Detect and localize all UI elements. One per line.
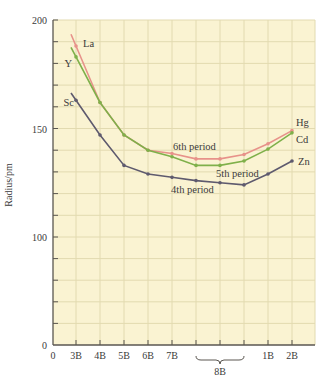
plot-background [53, 20, 315, 345]
data-point [74, 98, 78, 102]
data-point [242, 153, 246, 157]
label-cd: Cd [296, 134, 309, 145]
label-la: La [83, 38, 94, 49]
data-point [98, 101, 102, 105]
y-tick-label: 0 [42, 340, 47, 351]
data-point [218, 157, 222, 161]
data-point [242, 159, 246, 163]
y-axis-title: Radius/pm [3, 163, 14, 207]
label-y: Y [64, 58, 72, 69]
data-point [266, 147, 270, 151]
data-point [194, 164, 198, 168]
data-point [266, 172, 270, 176]
group-brace [196, 356, 244, 364]
x-tick-label: 1B [262, 350, 274, 361]
radius-chart: 0100150200 03B4B5B6B7B1B2B8B LaYScHgCdZn… [0, 0, 333, 383]
y-tick-label: 150 [32, 124, 47, 135]
annotation-6th-period: 6th period [173, 141, 217, 152]
y-tick-label: 200 [32, 15, 47, 26]
x-tick-label: 4B [94, 350, 106, 361]
data-point [98, 133, 102, 137]
annotation-5th-period: 5th period [216, 168, 260, 179]
data-point [170, 155, 174, 159]
x-tick-label: 7B [166, 350, 178, 361]
x-tick-label: 0 [51, 350, 56, 361]
data-point [218, 181, 222, 185]
x-tick-label: 5B [118, 350, 130, 361]
x-tick-label: 6B [142, 350, 154, 361]
data-point [266, 142, 270, 146]
label-hg: Hg [296, 117, 310, 128]
data-point [194, 179, 198, 183]
data-point [170, 176, 174, 180]
x-tick-label: 2B [286, 350, 298, 361]
data-point [218, 164, 222, 168]
data-point [146, 172, 150, 176]
label-zn: Zn [298, 156, 310, 167]
label-sc: Sc [64, 97, 75, 108]
data-point [74, 44, 78, 48]
data-point [74, 55, 78, 59]
data-point [122, 133, 126, 137]
x-tick-label: 3B [70, 350, 82, 361]
data-point [290, 131, 294, 135]
y-tick-label: 100 [32, 232, 47, 243]
data-point [290, 159, 294, 163]
data-point [194, 157, 198, 161]
annotation-4th-period: 4th period [171, 184, 215, 195]
data-point [242, 183, 246, 187]
data-point [146, 148, 150, 152]
data-point [122, 164, 126, 168]
group-label: 8B [214, 366, 226, 377]
data-point [170, 152, 174, 156]
